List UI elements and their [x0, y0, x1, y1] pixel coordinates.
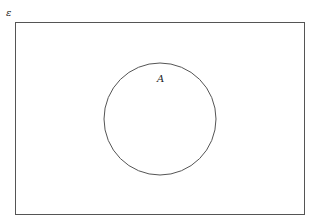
- universal-set-label: ε: [6, 7, 11, 18]
- set-a-label: A: [156, 73, 164, 84]
- venn-diagram: ε A: [0, 0, 320, 223]
- universal-set-rectangle: [16, 23, 305, 215]
